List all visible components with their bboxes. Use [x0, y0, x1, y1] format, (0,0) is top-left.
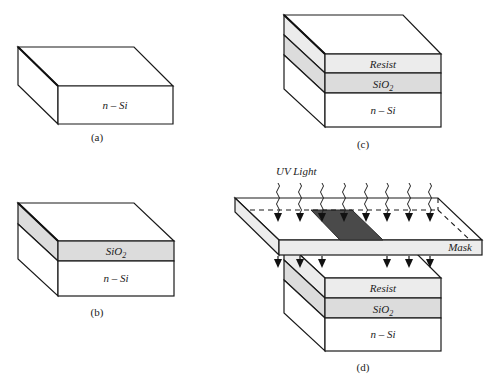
- c-nsi-label: n – Si: [370, 104, 395, 116]
- panel-d: Resist SiO2 n – Si (d) Mask UV Light: [235, 165, 482, 374]
- caption-b: (b): [91, 306, 104, 319]
- c-resist-label: Resist: [369, 58, 397, 70]
- caption-d: (d): [357, 361, 370, 374]
- caption-a: (a): [91, 131, 104, 144]
- caption-c: (c): [357, 138, 370, 151]
- uv-light-label: UV Light: [276, 165, 317, 177]
- panel-c: Resist SiO2 n – Si (c): [284, 15, 441, 151]
- down-arrow-icon: [274, 256, 282, 268]
- panel-b: SiO2 n – Si (b): [18, 203, 174, 319]
- a-nsi-label: n – Si: [102, 99, 127, 111]
- d-resist-label: Resist: [369, 282, 397, 294]
- panel-a: n – Si (a): [18, 47, 173, 144]
- b-nsi-label: n – Si: [103, 272, 128, 284]
- photolithography-diagram: n – Si (a) SiO2 n – Si (b) Resist SiO2 n…: [0, 0, 498, 382]
- mask: Mask: [235, 198, 482, 255]
- d-nsi-label: n – Si: [370, 328, 395, 340]
- mask-label: Mask: [447, 241, 473, 253]
